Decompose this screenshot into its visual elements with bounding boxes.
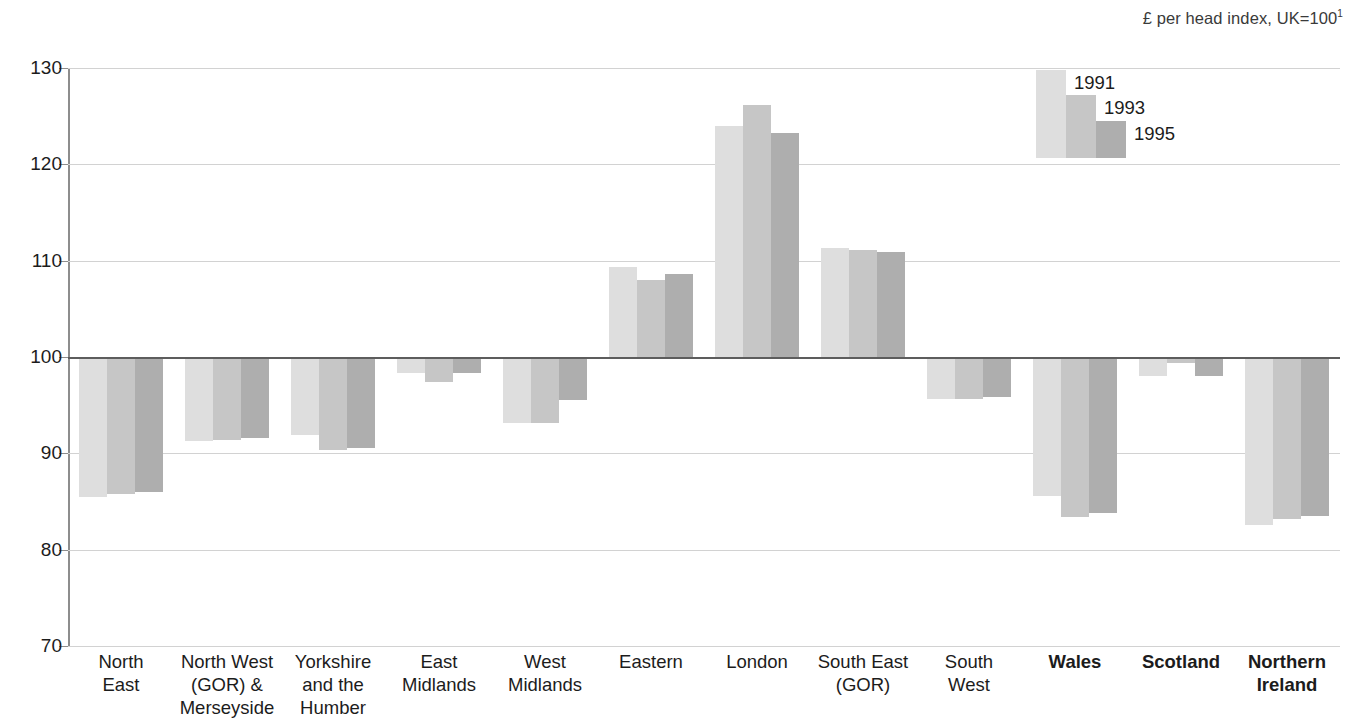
gridline-100 bbox=[68, 357, 1340, 359]
x-axis-category-labels: North EastNorth West (GOR) & MerseysideY… bbox=[68, 650, 1340, 724]
bar bbox=[743, 105, 771, 357]
x-axis-label: South East (GOR) bbox=[810, 650, 916, 696]
y-tick-label-100: 100 bbox=[30, 346, 62, 368]
bar bbox=[849, 250, 877, 357]
x-axis-label: North East bbox=[68, 650, 174, 696]
y-tick-label-120: 120 bbox=[30, 153, 62, 175]
bar bbox=[135, 357, 163, 492]
bar bbox=[1273, 357, 1301, 519]
bar bbox=[821, 248, 849, 357]
bar bbox=[107, 357, 135, 494]
bar bbox=[955, 357, 983, 399]
x-axis-label: East Midlands bbox=[386, 650, 492, 696]
chart-legend: 1991 1993 1995 bbox=[1036, 66, 1266, 158]
x-axis-label: West Midlands bbox=[492, 650, 598, 696]
bar bbox=[1033, 357, 1061, 496]
bar bbox=[1301, 357, 1329, 516]
y-tick-label-90: 90 bbox=[41, 442, 62, 464]
x-axis-label: South West bbox=[916, 650, 1022, 696]
x-axis-label: Northern Ireland bbox=[1234, 650, 1340, 696]
bar bbox=[927, 357, 955, 399]
bar bbox=[1245, 357, 1273, 525]
chart-page: £ per head index, UK=1001 13012011010090… bbox=[0, 0, 1371, 724]
x-axis-label: Wales bbox=[1022, 650, 1128, 673]
chart-annotation: £ per head index, UK=1001 bbox=[1143, 8, 1343, 28]
bar bbox=[531, 357, 559, 423]
bar bbox=[559, 357, 587, 400]
bar bbox=[665, 274, 693, 357]
bar bbox=[453, 357, 481, 373]
bar bbox=[771, 133, 799, 357]
x-axis-label: Yorkshire and the Humber bbox=[280, 650, 386, 719]
legend-swatch-1991 bbox=[1036, 70, 1066, 158]
bar bbox=[1061, 357, 1089, 517]
x-axis-label: London bbox=[704, 650, 810, 673]
y-tick-label-80: 80 bbox=[41, 539, 62, 561]
bar bbox=[877, 252, 905, 357]
legend-label-1995: 1995 bbox=[1134, 123, 1175, 145]
annotation-text: £ per head index, UK=100 bbox=[1143, 9, 1338, 27]
bar bbox=[637, 280, 665, 357]
bar bbox=[503, 357, 531, 423]
bar bbox=[425, 357, 453, 382]
x-axis-label: Eastern bbox=[598, 650, 704, 673]
legend-swatch-1995 bbox=[1096, 121, 1126, 158]
legend-label-1991: 1991 bbox=[1074, 72, 1115, 94]
x-axis-label: North West (GOR) & Merseyside bbox=[174, 650, 280, 719]
bar bbox=[715, 126, 743, 357]
y-tick-label-130: 130 bbox=[30, 57, 62, 79]
bar bbox=[213, 357, 241, 440]
legend-swatch-1993 bbox=[1066, 95, 1096, 158]
bar bbox=[241, 357, 269, 438]
bar bbox=[983, 357, 1011, 397]
bar bbox=[347, 357, 375, 448]
bar bbox=[79, 357, 107, 497]
bar bbox=[1139, 357, 1167, 376]
y-tick-label-70: 70 bbox=[41, 635, 62, 657]
bar bbox=[1089, 357, 1117, 513]
bar bbox=[319, 357, 347, 450]
bar bbox=[609, 267, 637, 357]
gridline-70 bbox=[68, 646, 1340, 647]
annotation-footnote-marker: 1 bbox=[1337, 8, 1343, 19]
bar bbox=[291, 357, 319, 435]
bar bbox=[185, 357, 213, 441]
legend-label-1993: 1993 bbox=[1104, 97, 1145, 119]
bar bbox=[1195, 357, 1223, 376]
y-tick-label-110: 110 bbox=[32, 250, 62, 272]
x-axis-label: Scotland bbox=[1128, 650, 1234, 673]
bar bbox=[397, 357, 425, 373]
